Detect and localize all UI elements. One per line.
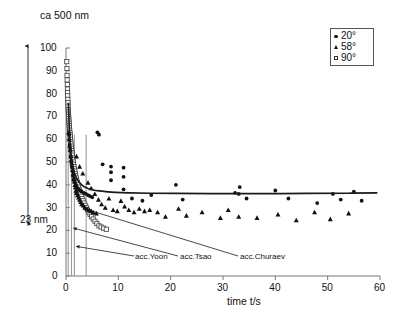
data-point-20deg <box>245 197 249 201</box>
data-point-58deg <box>163 214 168 219</box>
data-point-58deg <box>200 210 205 215</box>
x-tick-label: 50 <box>322 283 333 293</box>
data-point-58deg <box>275 212 280 217</box>
data-point-58deg <box>328 217 333 222</box>
x-tick-label: 60 <box>374 283 385 293</box>
y-tick-label: 20 <box>46 225 57 235</box>
filled-circle-icon <box>333 32 340 39</box>
data-point-90deg <box>65 66 69 70</box>
y-tick-label: 90 <box>46 66 57 76</box>
y-tick-label: 100 <box>40 43 57 53</box>
data-point-58deg <box>118 198 123 203</box>
legend-label-58deg: 58° <box>341 42 356 52</box>
leader-line <box>88 210 238 256</box>
x-tick-group <box>66 276 380 280</box>
data-point-58deg <box>142 209 147 214</box>
data-point-20deg <box>109 170 113 174</box>
data-point-58deg <box>184 213 189 218</box>
y-tick-label: 30 <box>46 203 57 213</box>
legend-item-90deg[interactable]: 90° <box>333 52 371 63</box>
data-point-20deg <box>122 166 126 170</box>
data-point-58deg <box>294 218 299 223</box>
data-point-20deg <box>130 197 134 201</box>
data-point-58deg <box>176 206 181 211</box>
open-square-icon <box>333 54 340 61</box>
data-point-58deg <box>346 211 351 216</box>
data-point-58deg <box>226 207 231 212</box>
thickness-range-label: 23 nm <box>20 215 48 225</box>
y-tick-label: 40 <box>46 180 57 190</box>
data-point-20deg <box>109 178 113 182</box>
data-point-20deg <box>360 199 364 203</box>
data-point-20deg <box>174 183 178 187</box>
x-tick-label: 40 <box>269 283 280 293</box>
data-point-20deg <box>315 201 319 205</box>
legend-item-58deg[interactable]: 58° <box>333 41 371 52</box>
data-point-20deg <box>141 199 145 203</box>
data-point-58deg <box>77 164 82 169</box>
y-tick-label: 60 <box>46 134 57 144</box>
y-tick-label: 70 <box>46 111 57 121</box>
chart-title: ca 500 nm <box>40 10 89 21</box>
data-point-58deg <box>218 215 223 220</box>
leader-label-tsao: acc.Tsao <box>180 253 212 261</box>
data-point-58deg <box>312 210 317 215</box>
filled-triangle-icon <box>333 43 340 50</box>
data-point-58deg <box>126 207 131 212</box>
data-point-90deg <box>65 82 69 86</box>
data-point-58deg <box>96 197 101 202</box>
data-point-58deg <box>111 207 116 212</box>
data-point-58deg <box>255 215 260 220</box>
data-point-58deg <box>115 209 120 214</box>
axes-group <box>66 48 380 276</box>
data-point-20deg <box>181 198 185 202</box>
data-point-20deg <box>122 187 126 191</box>
data-point-90deg <box>65 60 69 64</box>
x-axis-title: time t/s <box>227 296 261 307</box>
data-point-20deg <box>101 162 105 166</box>
x-tick-label: 20 <box>165 283 176 293</box>
y-tick-label: 50 <box>46 157 57 167</box>
legend-label-90deg: 90° <box>341 53 356 63</box>
y-tick-label: 0 <box>52 271 58 281</box>
x-tick-label: 10 <box>112 283 123 293</box>
data-point-20deg <box>90 195 94 199</box>
data-point-58deg <box>106 196 111 201</box>
data-point-58deg <box>122 204 127 209</box>
data-point-90deg <box>65 78 69 82</box>
legend-label-20deg: 20° <box>341 31 356 41</box>
data-point-20deg <box>339 198 343 202</box>
data-point-20deg <box>97 133 101 137</box>
data-point-58deg <box>236 214 241 219</box>
data-point-20deg <box>238 185 242 189</box>
leader-label-churaev: acc.Churaev <box>240 253 285 261</box>
data-point-90deg <box>65 73 69 77</box>
series-markers-58deg <box>66 130 351 222</box>
y-tick-label: 10 <box>46 248 57 258</box>
x-tick-label: 30 <box>217 283 228 293</box>
annotation-leader-lines <box>73 210 238 256</box>
data-point-90deg <box>104 227 108 231</box>
leader-label-yoon: acc.Yoon <box>135 253 168 261</box>
data-point-20deg <box>122 175 126 179</box>
y-tick-label: 80 <box>46 89 57 99</box>
x-tick-label: 0 <box>63 283 69 293</box>
model-fit-curve <box>68 103 377 194</box>
data-point-58deg <box>132 210 137 215</box>
data-point-58deg <box>137 206 142 211</box>
data-point-58deg <box>99 202 104 207</box>
data-point-58deg <box>155 210 160 215</box>
data-point-58deg <box>92 191 97 196</box>
data-point-20deg <box>287 197 291 201</box>
data-point-20deg <box>109 165 113 169</box>
legend-item-20deg[interactable]: 20° <box>333 30 371 41</box>
data-point-58deg <box>147 207 152 212</box>
data-point-58deg <box>80 171 85 176</box>
leader-line <box>76 246 134 256</box>
data-point-20deg <box>273 189 277 193</box>
legend-box: 20° 58° 90° <box>330 28 374 66</box>
